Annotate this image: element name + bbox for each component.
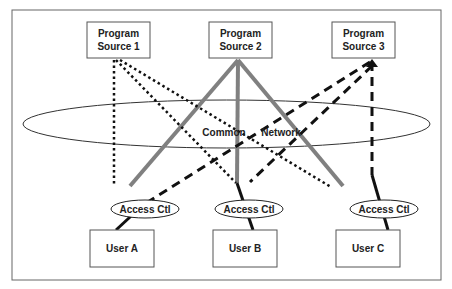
source-1-line2: Source 1 <box>97 41 140 52</box>
user-a-box[interactable]: User A <box>90 230 154 267</box>
network-label-common: Common <box>202 127 245 138</box>
access-ctl-a-label: Access Ctl <box>119 204 170 215</box>
program-source-1[interactable]: Program Source 1 <box>87 22 150 58</box>
source-2-line2: Source 2 <box>219 41 262 52</box>
access-ctl-c[interactable]: Access Ctl <box>350 200 418 218</box>
program-source-3[interactable]: Program Source 3 <box>332 22 395 58</box>
network-label-network: Network <box>261 127 301 138</box>
user-c-label: User C <box>352 243 384 254</box>
source-1-line1: Program <box>98 28 139 39</box>
access-ctl-a[interactable]: Access Ctl <box>111 200 179 218</box>
access-ctl-c-label: Access Ctl <box>358 204 409 215</box>
user-b-label: User B <box>229 243 261 254</box>
access-ctl-b[interactable]: Access Ctl <box>215 200 283 218</box>
user-b-box[interactable]: User B <box>213 230 277 267</box>
access-ctl-b-label: Access Ctl <box>223 204 274 215</box>
source-2-line1: Program <box>220 28 261 39</box>
source-3-line1: Program <box>343 28 384 39</box>
source-3-line2: Source 3 <box>342 41 385 52</box>
user-c-box[interactable]: User C <box>336 230 400 267</box>
user-a-label: User A <box>106 243 138 254</box>
program-source-2[interactable]: Program Source 2 <box>209 22 272 58</box>
network-diagram: Program Source 1 Program Source 2 Progra… <box>0 0 452 289</box>
